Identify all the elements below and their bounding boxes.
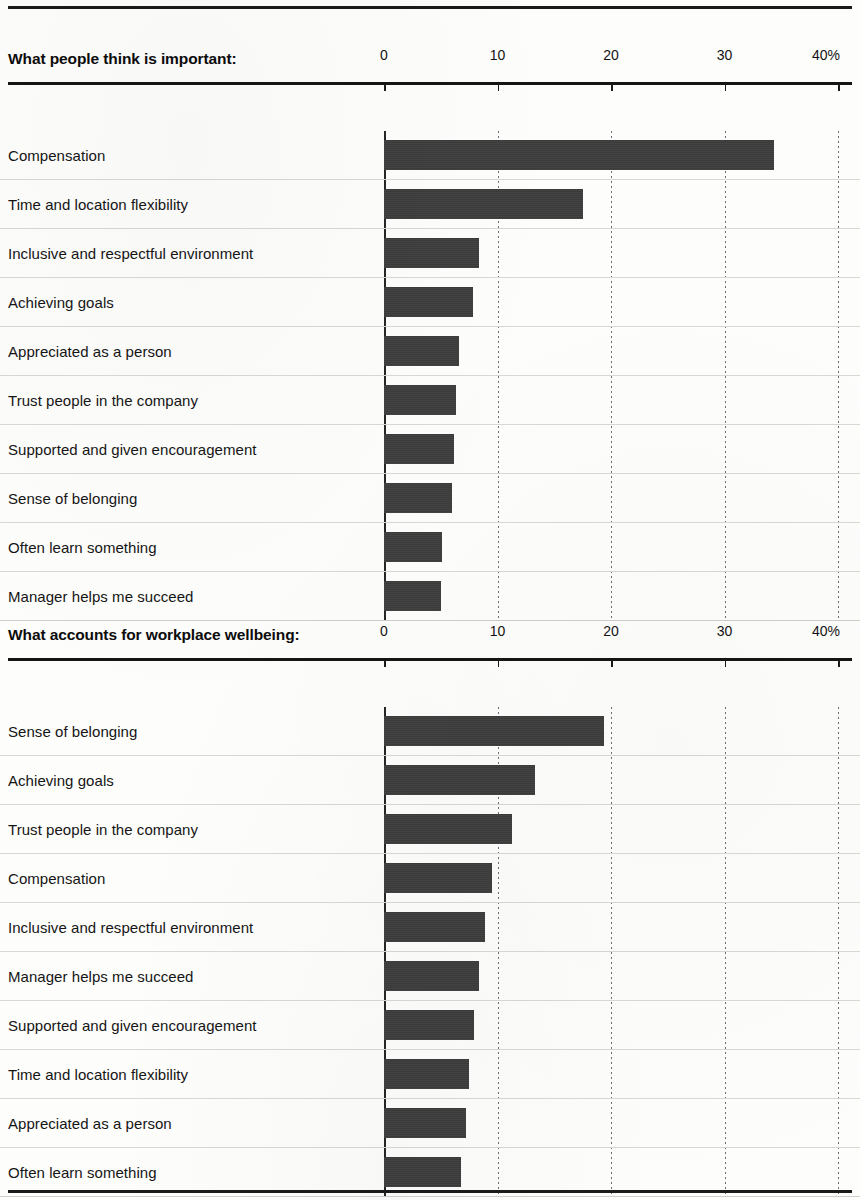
bar [384,287,473,317]
chart-row: Supported and given encouragement [0,425,860,474]
chart-row: Inclusive and respectful environment [0,229,860,278]
axis-tick-label: 40% [812,623,840,639]
row-label: Compensation [8,870,105,887]
bar-rows: Sense of belongingAchieving goalsTrust p… [0,707,860,1197]
chart-row: Achieving goals [0,278,860,327]
bar [384,189,583,219]
row-label: Manager helps me succeed [8,968,193,985]
row-label: Supported and given encouragement [8,1017,257,1034]
bar [384,140,774,170]
row-label: Often learn something [8,1164,157,1181]
row-label: Inclusive and respectful environment [8,919,253,936]
bar [384,1010,474,1040]
bar [384,961,479,991]
row-label: Appreciated as a person [8,1115,172,1132]
bar [384,814,512,844]
chart-header: What accounts for workplace wellbeing: 0… [0,620,860,660]
axis-tick-mark [384,84,386,91]
axis-tick-mark [498,84,500,91]
row-label: Trust people in the company [8,821,198,838]
chart-row: Appreciated as a person [0,327,860,376]
row-label: Sense of belonging [8,723,137,740]
row-label: Time and location flexibility [8,1066,188,1083]
bar [384,581,441,611]
axis-tick-marks [0,84,860,91]
bar [384,483,452,513]
chart-row: Trust people in the company [0,805,860,854]
axis-tick-labels: 010203040% [0,47,860,69]
row-label: Often learn something [8,539,157,556]
page-root: What people think is important: 01020304… [0,0,860,1200]
chart-row: Manager helps me succeed [0,952,860,1001]
chart-block-wellbeing: What accounts for workplace wellbeing: 0… [0,620,860,1197]
axis-tick-label: 0 [380,623,388,639]
axis-tick-label: 20 [603,47,619,63]
axis-tick-label: 20 [603,623,619,639]
bar-rows: CompensationTime and location flexibilit… [0,131,860,621]
bar [384,238,479,268]
chart-row: Sense of belonging [0,474,860,523]
axis-tick-label: 10 [490,623,506,639]
chart-row: Appreciated as a person [0,1099,860,1148]
axis-tick-mark [498,660,500,667]
bar [384,532,442,562]
bar [384,1157,461,1187]
chart-row: Compensation [0,854,860,903]
bar [384,716,604,746]
bar [384,336,459,366]
axis-tick-mark [838,84,840,91]
chart-row: Achieving goals [0,756,860,805]
row-label: Compensation [8,147,105,164]
top-rule [8,6,852,9]
bar [384,765,535,795]
row-label: Achieving goals [8,294,114,311]
bar [384,385,456,415]
chart-row: Supported and given encouragement [0,1001,860,1050]
bar [384,863,492,893]
axis-tick-mark [838,660,840,667]
row-label: Inclusive and respectful environment [8,245,253,262]
axis-tick-label: 30 [717,623,733,639]
axis-tick-label: 10 [490,47,506,63]
chart-row: Compensation [0,131,860,180]
axis-tick-mark [611,84,613,91]
chart-row: Manager helps me succeed [0,572,860,621]
bar [384,434,454,464]
bar [384,1059,469,1089]
chart-row: Trust people in the company [0,376,860,425]
axis-tick-mark [725,660,727,667]
row-label: Sense of belonging [8,490,137,507]
axis-tick-label: 0 [380,47,388,63]
chart-row: Time and location flexibility [0,180,860,229]
axis-tick-mark [611,660,613,667]
bar [384,1108,466,1138]
axis-tick-marks [0,660,860,667]
bottom-rule [8,1190,852,1193]
chart-row: Inclusive and respectful environment [0,903,860,952]
axis-tick-label: 40% [812,47,840,63]
bar [384,912,485,942]
chart-header: What people think is important: 01020304… [0,44,860,84]
row-label: Time and location flexibility [8,196,188,213]
axis-tick-labels: 010203040% [0,623,860,645]
chart-row: Time and location flexibility [0,1050,860,1099]
chart-block-important: What people think is important: 01020304… [0,44,860,621]
row-label: Appreciated as a person [8,343,172,360]
axis-tick-mark [725,84,727,91]
row-label: Supported and given encouragement [8,441,257,458]
row-label: Trust people in the company [8,392,198,409]
chart-row: Sense of belonging [0,707,860,756]
row-label: Achieving goals [8,772,114,789]
axis-tick-mark [384,660,386,667]
row-label: Manager helps me succeed [8,588,193,605]
axis-tick-label: 30 [717,47,733,63]
chart-row: Often learn something [0,523,860,572]
